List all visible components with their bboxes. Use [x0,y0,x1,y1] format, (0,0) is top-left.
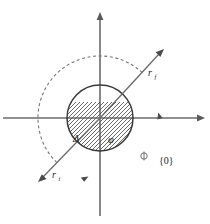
vector-r-final-label: r [148,67,152,78]
delta-label: Δ [72,133,79,144]
vector-r-initial-subscript: i [59,175,61,182]
vector-r-initial-label: r [52,169,56,180]
vertical-axis-arrowhead [97,12,104,20]
set-zero-label: {0} [159,155,174,166]
vector-r-final-subscript: f [155,73,158,80]
horizontal-axis-arrowhead [197,115,205,122]
figure-container: r f r i Δ φ {0} [0,0,210,224]
arc-marker-lower [81,177,89,182]
phi-label: φ [108,134,114,145]
scattering-geometry-diagram: r f r i Δ φ {0} [0,0,210,224]
labels-group: r f r i Δ φ {0} [52,67,174,182]
